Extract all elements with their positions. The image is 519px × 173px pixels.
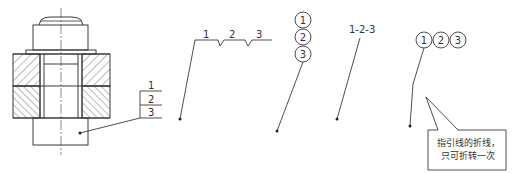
leader-dot <box>179 118 182 121</box>
horizontal-bend-group <box>179 40 273 121</box>
dashed-text-group <box>336 38 361 121</box>
leader-line-vertical <box>277 62 303 131</box>
horizontal-label-3: 3 <box>256 29 262 40</box>
stacked-label-3: 3 <box>148 107 154 118</box>
lower-plate-left <box>13 86 40 118</box>
callout-line-1: 指引线的折线， <box>430 137 506 150</box>
leader-line-bent <box>410 48 424 126</box>
leader-line-dashed-text <box>337 38 360 119</box>
hcircle-label-2: 2 <box>438 35 444 46</box>
horizontal-label-2: 2 <box>229 29 235 40</box>
callout-line-2: 只可折转一次 <box>430 150 506 163</box>
hcircle-label-3: 3 <box>455 35 461 46</box>
nut <box>33 118 88 145</box>
bolt-head <box>33 25 88 50</box>
leader-dot <box>409 125 412 128</box>
bolt-assembly <box>13 8 110 155</box>
vertical-label-2: 2 <box>300 32 306 43</box>
callout-text: 指引线的折线， 只可折转一次 <box>430 137 506 163</box>
stacked-label-2: 2 <box>148 94 154 105</box>
leader-line-stacked <box>80 118 140 133</box>
leader-line-horizontal <box>180 40 195 119</box>
leader-dot <box>336 118 339 121</box>
vertical-label-1: 1 <box>300 15 306 26</box>
lower-plate-right <box>82 86 110 118</box>
upper-plate-left <box>13 54 40 86</box>
vertical-circle-group <box>276 12 312 133</box>
dashed-text-label: 1-2-3 <box>349 24 375 35</box>
horizontal-label-1: 1 <box>203 29 209 40</box>
upper-plate-right <box>82 54 110 86</box>
stacked-label-1: 1 <box>148 80 154 91</box>
vertical-label-3: 3 <box>300 49 306 60</box>
leader-dot <box>276 130 279 133</box>
hcircle-label-1: 1 <box>421 35 427 46</box>
leader-dot <box>79 132 82 135</box>
